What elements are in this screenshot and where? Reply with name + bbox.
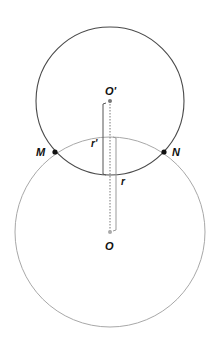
- label-n: N: [172, 146, 181, 158]
- label-o-prime: O': [105, 85, 117, 97]
- point-m: [52, 149, 57, 154]
- radius-bracket-r: [113, 137, 116, 231]
- label-o: O: [105, 240, 114, 252]
- label-m: M: [36, 146, 46, 158]
- label-r-prime: r': [91, 138, 98, 149]
- label-r: r: [121, 176, 126, 187]
- radius-bracket-r-prime: [103, 103, 106, 175]
- point-n: [161, 149, 166, 154]
- center-o-prime-dot: [108, 99, 112, 103]
- diagram-canvas: O' O M N r' r: [0, 0, 217, 343]
- center-o-dot: [108, 230, 112, 234]
